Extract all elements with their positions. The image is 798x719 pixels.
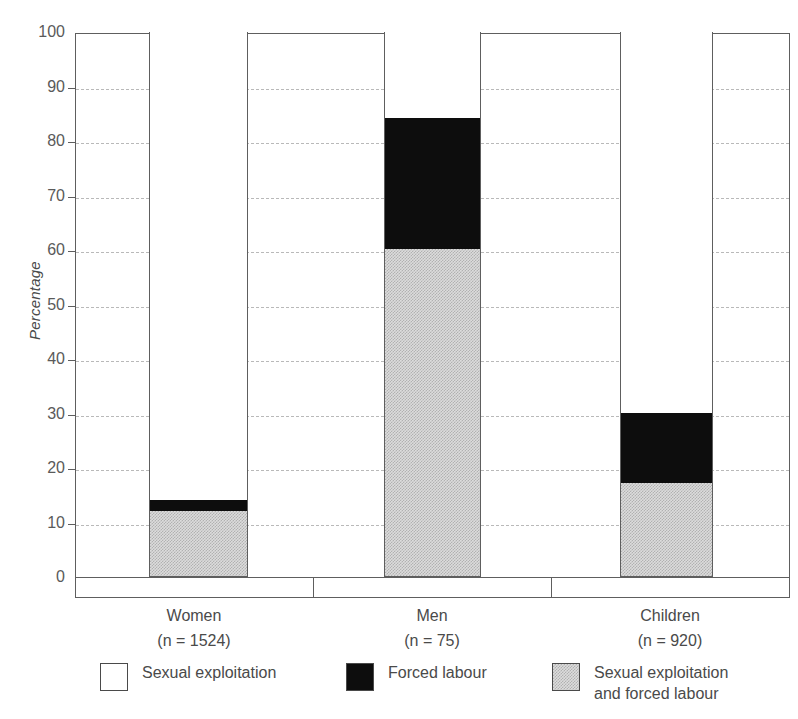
legend-item-sexual-exploitation-and-forced-labour[interactable]: Sexual exploitation and forced labour [552,662,728,704]
bar-segment-forced-labour [385,118,480,249]
bar-segment-both [385,249,480,576]
y-tick-mark [68,88,75,89]
bar-women[interactable] [149,32,248,577]
x-tick-mark [75,578,76,597]
y-tick-label: 50 [5,296,65,314]
y-tick-label: 20 [5,459,65,477]
legend-label: Forced labour [388,662,487,683]
bar-men[interactable] [384,32,481,577]
y-tick-mark [68,251,75,252]
x-category-label: Men [416,607,447,624]
x-category-children: Children (n = 920) [551,603,789,653]
x-category-count: (n = 920) [551,628,789,653]
bar-segment-sexual-exploitation [385,31,480,118]
plot-area [75,33,790,578]
x-axis-line [75,597,790,598]
bar-segment-both [621,483,712,576]
y-tick-mark [68,524,75,525]
x-category-women: Women (n = 1524) [75,603,313,653]
white-swatch-icon [100,663,128,691]
bar-segment-sexual-exploitation [621,31,712,413]
y-tick-label: 90 [5,78,65,96]
chart-figure: Percentage 100 90 80 70 60 50 40 30 20 1… [0,0,798,719]
y-tick-mark [68,142,75,143]
gray-hatched-swatch-icon [552,663,580,691]
x-category-count: (n = 75) [313,628,551,653]
x-tick-mark [313,578,314,597]
legend-item-forced-labour[interactable]: Forced labour [346,662,487,691]
y-tick-label: 70 [5,187,65,205]
x-category-men: Men (n = 75) [313,603,551,653]
y-tick-mark [68,469,75,470]
y-tick-label: 80 [5,132,65,150]
legend-label: Sexual exploitation [142,662,276,683]
y-tick-mark [68,197,75,198]
y-tick-label: 60 [5,241,65,259]
bar-segment-sexual-exploitation [150,31,247,500]
bar-segment-forced-labour [150,500,247,511]
chart-legend: Sexual exploitation Forced labour Sexual… [100,662,740,712]
x-tick-mark [551,578,552,597]
y-tick-mark [68,306,75,307]
y-tick-label: 10 [5,514,65,532]
bar-children[interactable] [620,32,713,577]
y-tick-mark [68,360,75,361]
bar-segment-both [150,511,247,576]
x-category-label: Children [640,607,700,624]
bar-segment-forced-labour [621,413,712,484]
y-tick-label: 100 [5,23,65,41]
legend-label: Sexual exploitation and forced labour [594,662,728,704]
y-tick-mark [68,415,75,416]
black-swatch-icon [346,663,374,691]
x-category-count: (n = 1524) [75,628,313,653]
y-tick-label: 0 [5,568,65,586]
x-category-label: Women [167,607,222,624]
y-tick-label: 30 [5,405,65,423]
x-tick-mark [789,578,790,597]
y-tick-label: 40 [5,350,65,368]
legend-item-sexual-exploitation[interactable]: Sexual exploitation [100,662,276,691]
